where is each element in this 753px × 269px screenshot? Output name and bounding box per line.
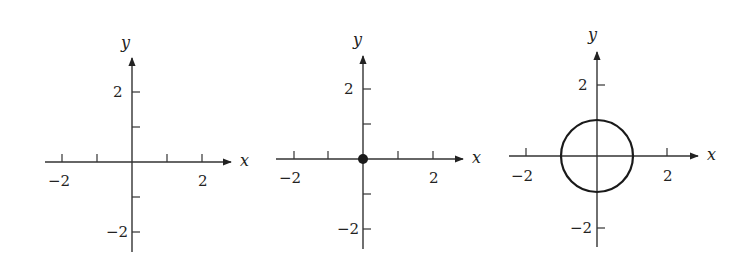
- plot-origin-point: x y −2 2 2 −2: [276, 30, 481, 249]
- x-tick-label-2: 2: [429, 169, 439, 187]
- y-tick-label-neg2: −2: [570, 219, 592, 237]
- x-tick-label-neg2: −2: [511, 167, 533, 185]
- x-tick-label-neg2: −2: [279, 169, 301, 187]
- y-axis-label: y: [352, 30, 363, 49]
- plot-empty-axes: x y −2 2 2 −2: [45, 33, 249, 252]
- x-axis-label: x: [472, 148, 481, 167]
- origin-point: [358, 154, 368, 164]
- y-axis-label: y: [120, 33, 131, 52]
- figure-canvas: x y −2 2 2 −2 x y −2 2 2 −2: [0, 0, 753, 269]
- x-tick-label-2: 2: [663, 167, 673, 185]
- y-tick-label-neg2: −2: [106, 223, 128, 241]
- x-axis-label: x: [707, 145, 716, 164]
- x-tick-label-2: 2: [198, 172, 208, 190]
- y-tick-label-2: 2: [113, 83, 123, 101]
- y-axis-label: y: [587, 25, 598, 44]
- x-axis-label: x: [240, 151, 249, 170]
- x-tick-label-neg2: −2: [48, 172, 70, 190]
- y-tick-label-neg2: −2: [337, 220, 359, 238]
- y-tick-label-2: 2: [344, 80, 354, 98]
- y-tick-label-2: 2: [578, 76, 588, 94]
- plot-unit-circle: x y −2 2 2 −2: [509, 25, 716, 247]
